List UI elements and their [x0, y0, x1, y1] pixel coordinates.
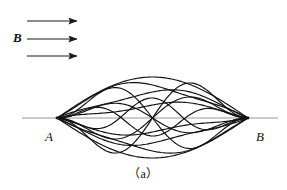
point-a-label: A: [45, 129, 53, 145]
figure-canvas: [0, 0, 287, 190]
focus-point-a: [56, 117, 59, 120]
point-b-label: B: [256, 129, 264, 145]
focus-point-b: [247, 117, 250, 120]
physics-figure-magnetic-focusing: B A B （a）: [0, 0, 287, 190]
figure-caption: （a）: [0, 164, 287, 182]
magnetic-field-arrows: [27, 21, 77, 56]
trajectory-2: [57, 83, 248, 118]
magnetic-field-label: B: [13, 30, 22, 46]
particle-trajectories: [57, 77, 248, 158]
trajectory-6: [57, 118, 248, 158]
